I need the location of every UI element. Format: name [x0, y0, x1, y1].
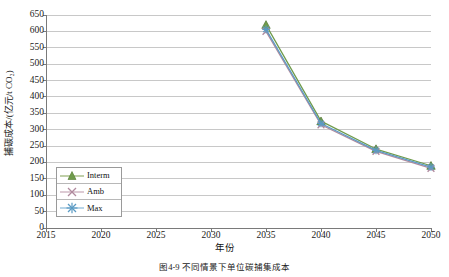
- y-tick-label: 100: [14, 190, 44, 200]
- figure-caption: 图4-9 不同情景下单位碳捕集成本: [0, 262, 449, 272]
- x-axis-title: 年份: [0, 243, 449, 253]
- y-tick-label: 350: [14, 108, 44, 118]
- y-tick-label: 500: [14, 59, 44, 69]
- legend-marker-x-icon: [60, 185, 84, 199]
- chart-figure: 050100150200250300350400450500550600650 …: [0, 0, 449, 277]
- y-tick-label: 250: [14, 141, 44, 151]
- legend-marker-asterisk-icon: [60, 201, 84, 215]
- y-axis-title: 捕碳成本/(亿元/t CO₂): [4, 48, 14, 178]
- y-tick-label: 400: [14, 92, 44, 102]
- chart-legend: Interm Amb Max: [56, 167, 122, 217]
- x-tick-label: 2020: [81, 230, 121, 240]
- x-tick-label: 2025: [136, 230, 176, 240]
- x-tick-label: 2035: [246, 230, 286, 240]
- y-tick-label: 300: [14, 125, 44, 135]
- legend-item-max: Max: [57, 200, 121, 216]
- x-tick-label: 2040: [301, 230, 341, 240]
- y-tick-label: 50: [14, 207, 44, 217]
- y-tick-label: 600: [14, 26, 44, 36]
- x-axis-tick-labels: 20152020202520302035204020452050: [0, 230, 449, 244]
- legend-label-amb: Amb: [87, 187, 104, 196]
- legend-item-amb: Amb: [57, 184, 121, 200]
- y-tick-label: 450: [14, 76, 44, 86]
- x-tick-label: 2050: [411, 230, 449, 240]
- legend-label-max: Max: [87, 204, 103, 213]
- x-tick-label: 2045: [356, 230, 396, 240]
- x-tick-label: 2030: [191, 230, 231, 240]
- y-tick-label: 200: [14, 157, 44, 167]
- x-tick-label: 2015: [26, 230, 66, 240]
- y-axis-tick-labels: 050100150200250300350400450500550600650: [12, 0, 44, 240]
- legend-item-interm: Interm: [57, 168, 121, 184]
- y-tick-label: 650: [14, 10, 44, 20]
- legend-marker-triangle-icon: [60, 169, 84, 183]
- legend-label-interm: Interm: [87, 171, 110, 180]
- y-tick-label: 550: [14, 43, 44, 53]
- y-tick-label: 150: [14, 174, 44, 184]
